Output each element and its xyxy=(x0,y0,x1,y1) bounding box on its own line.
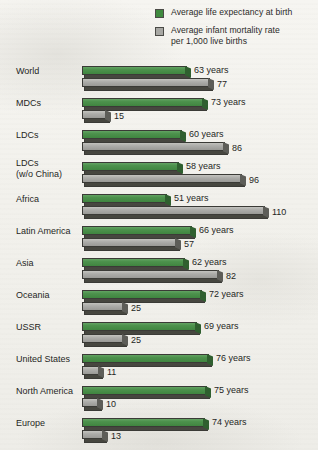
bar-value-label: 66 years xyxy=(199,225,234,236)
row-bars: 51 years110 xyxy=(82,192,318,224)
row-bars: 62 years82 xyxy=(82,256,318,288)
category-label: Europe xyxy=(0,418,76,429)
row-bars: 63 years77 xyxy=(82,64,318,96)
bar-body xyxy=(82,354,209,363)
bar-body xyxy=(82,290,202,299)
category-label: LDCs (w/o China) xyxy=(0,158,76,179)
row-bars: 72 years25 xyxy=(82,288,318,320)
bar-body xyxy=(82,430,104,439)
bar-value-label: 62 years xyxy=(192,257,227,268)
row-bars: 66 years57 xyxy=(82,224,318,256)
life-expectancy-bar: 51 years xyxy=(82,194,207,205)
bar-value-label: 25 xyxy=(131,303,141,314)
bar-value-label: 13 xyxy=(111,431,121,442)
bar-depth-shadow xyxy=(84,247,180,251)
bar-body xyxy=(82,110,107,119)
legend-item-infant-mortality: Average infant mortality rate per 1,000 … xyxy=(155,25,315,46)
life-expectancy-bar: 58 years xyxy=(82,162,219,173)
category-label: Asia xyxy=(0,258,76,269)
bar-value-label: 60 years xyxy=(189,129,224,140)
bar-body xyxy=(82,386,207,395)
bar-body xyxy=(82,322,197,331)
bar-value-label: 51 years xyxy=(174,193,209,204)
row-bars: 75 years10 xyxy=(82,384,318,416)
bar-body xyxy=(82,302,124,311)
life-expectancy-bar: 62 years xyxy=(82,258,225,269)
bar-body xyxy=(82,258,185,267)
bar-body xyxy=(82,206,265,215)
category-label: USSR xyxy=(0,322,76,333)
chart-row: World63 years77 xyxy=(0,64,318,96)
infant-mortality-bar: 11 xyxy=(82,366,140,377)
chart-row: Latin America66 years57 xyxy=(0,224,318,256)
row-bars: 58 years96 xyxy=(82,160,318,192)
infant-mortality-bar: 96 xyxy=(82,174,282,185)
legend-label-line-1: Average infant mortality rate xyxy=(171,25,280,35)
chart-row: MDCs73 years15 xyxy=(0,96,318,128)
chart-row: USSR69 years25 xyxy=(0,320,318,352)
bar-value-label: 25 xyxy=(131,335,141,346)
bar-value-label: 72 years xyxy=(209,289,244,300)
bar-value-label: 58 years xyxy=(186,161,221,172)
bar-body xyxy=(82,162,179,171)
chart-legend: Average life expectancy at birth Average… xyxy=(155,7,315,53)
bar-body xyxy=(82,334,124,343)
bar-value-label: 11 xyxy=(107,367,116,378)
bar-body xyxy=(82,194,167,203)
infant-mortality-bar: 10 xyxy=(82,398,139,409)
bar-value-label: 63 years xyxy=(194,65,229,76)
chart-row: Europe74 years13 xyxy=(0,416,318,448)
life-expectancy-infant-mortality-chart: Average life expectancy at birth Average… xyxy=(0,0,318,450)
infant-mortality-bar: 15 xyxy=(82,110,147,121)
bar-value-label: 96 xyxy=(249,175,259,186)
bar-value-label: 82 xyxy=(226,271,236,282)
infant-mortality-bar: 57 xyxy=(82,238,217,249)
chart-row: United States76 years11 xyxy=(0,352,318,384)
life-expectancy-bar: 76 years xyxy=(82,354,249,365)
bar-depth-shadow xyxy=(84,215,268,219)
bar-body xyxy=(82,98,204,107)
infant-mortality-bar: 25 xyxy=(82,302,164,313)
category-label: LDCs xyxy=(0,130,76,141)
bar-body xyxy=(82,78,210,87)
life-expectancy-bar: 73 years xyxy=(82,98,244,109)
bar-value-label: 69 years xyxy=(204,321,239,332)
chart-row: LDCs60 years86 xyxy=(0,128,318,160)
life-expectancy-bar: 60 years xyxy=(82,130,222,141)
legend-label-line-1: Average life expectancy at birth xyxy=(171,7,292,17)
bar-value-label: 77 xyxy=(217,79,227,90)
gray-square-swatch-icon xyxy=(155,27,164,36)
life-expectancy-bar: 63 years xyxy=(82,66,227,77)
chart-rows: World63 years77MDCs73 years15LDCs60 year… xyxy=(0,64,318,448)
row-bars: 73 years15 xyxy=(82,96,318,128)
bar-body xyxy=(82,270,219,279)
bar-value-label: 57 xyxy=(184,239,194,250)
bar-depth-shadow xyxy=(84,343,127,347)
infant-mortality-bar: 110 xyxy=(82,206,305,217)
category-label: United States xyxy=(0,354,76,365)
bar-body xyxy=(82,238,177,247)
bar-value-label: 86 xyxy=(232,143,242,154)
bar-depth-shadow xyxy=(84,279,222,283)
category-label: Latin America xyxy=(0,226,76,237)
green-square-swatch-icon xyxy=(155,9,164,18)
row-bars: 60 years86 xyxy=(82,128,318,160)
bar-body xyxy=(82,130,182,139)
infant-mortality-bar: 77 xyxy=(82,78,250,89)
chart-row: North America75 years10 xyxy=(0,384,318,416)
life-expectancy-bar: 75 years xyxy=(82,386,247,397)
infant-mortality-bar: 25 xyxy=(82,334,164,345)
bar-body xyxy=(82,418,205,427)
chart-row: Oceania72 years25 xyxy=(0,288,318,320)
bar-value-label: 74 years xyxy=(212,417,247,428)
bar-value-label: 75 years xyxy=(214,385,249,396)
bar-value-label: 73 years xyxy=(211,97,246,108)
infant-mortality-bar: 86 xyxy=(82,142,265,153)
category-label: Oceania xyxy=(0,290,76,301)
infant-mortality-bar: 82 xyxy=(82,270,259,281)
category-label: World xyxy=(0,66,76,77)
life-expectancy-bar: 72 years xyxy=(82,290,242,301)
bar-body xyxy=(82,226,192,235)
chart-row: Asia62 years82 xyxy=(0,256,318,288)
bar-depth-shadow xyxy=(84,151,228,155)
